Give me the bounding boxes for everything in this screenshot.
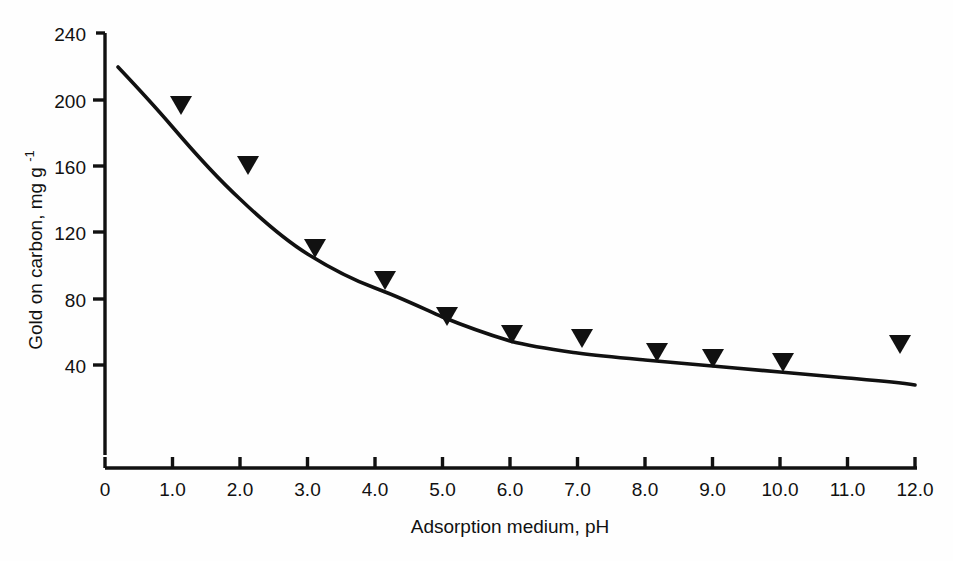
y-axis-title-superscript: -1 xyxy=(22,150,37,162)
y-tick-label-120: 120 xyxy=(54,223,86,244)
x-tick-label-3: 3.0 xyxy=(294,479,320,500)
y-tick-label-160: 160 xyxy=(54,157,86,178)
y-tick-label-240: 240 xyxy=(54,24,86,45)
x-tick-label-2: 2.0 xyxy=(227,479,253,500)
x-tick-label-0: 0 xyxy=(100,479,111,500)
data-point-marker xyxy=(571,329,593,348)
adsorption-ph-chart: 240 200 160 120 80 40 0 1.0 xyxy=(0,0,953,561)
data-point-marker xyxy=(772,353,794,372)
x-axis xyxy=(105,457,917,468)
x-tick-label-1: 1.0 xyxy=(159,479,185,500)
data-point-marker xyxy=(237,156,259,175)
x-axis-title: Adsorption medium, pH xyxy=(411,516,610,537)
x-tick-labels: 0 1.0 2.0 3.0 4.0 5.0 6.0 7.0 8.0 9.0 10… xyxy=(100,479,934,500)
x-tick-label-9: 9.0 xyxy=(699,479,725,500)
y-tick-labels: 240 200 160 120 80 40 xyxy=(54,24,86,377)
x-tick-label-6: 6.0 xyxy=(497,479,523,500)
x-tick-label-8: 8.0 xyxy=(632,479,658,500)
x-tick-label-11: 11.0 xyxy=(830,479,866,500)
fitted-curve xyxy=(118,67,915,385)
x-tick-label-4: 4.0 xyxy=(362,479,388,500)
data-point-marker xyxy=(170,96,192,115)
data-point-marker xyxy=(889,335,911,354)
y-axis xyxy=(93,33,105,455)
y-tick-label-80: 80 xyxy=(65,290,86,311)
x-tick-label-10: 10.0 xyxy=(762,479,799,500)
x-tick-label-12: 12.0 xyxy=(897,479,934,500)
y-tick-label-200: 200 xyxy=(54,91,86,112)
figure-container: 240 200 160 120 80 40 0 1.0 xyxy=(0,0,953,561)
y-tick-label-40: 40 xyxy=(65,356,86,377)
x-tick-label-7: 7.0 xyxy=(564,479,590,500)
y-axis-title-text: Gold on carbon, mg g xyxy=(25,167,46,350)
y-axis-title: Gold on carbon, mg g -1 xyxy=(22,150,46,350)
data-point-marker xyxy=(501,325,523,344)
y-axis-title-group: Gold on carbon, mg g -1 xyxy=(22,150,46,350)
x-tick-label-5: 5.0 xyxy=(429,479,455,500)
